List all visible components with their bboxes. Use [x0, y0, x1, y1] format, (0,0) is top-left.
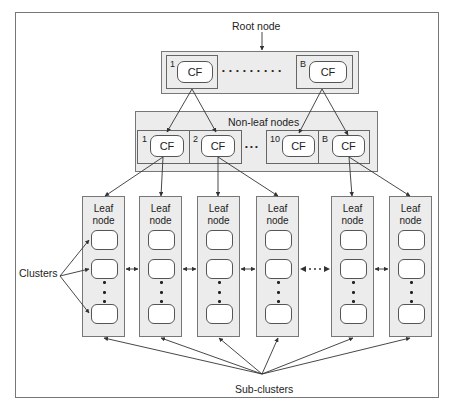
non-leaf-entry-2-index: 2 — [193, 134, 198, 144]
vertical-dot — [160, 300, 163, 303]
non-leaf-nodes-label: Non-leaf nodes — [228, 116, 299, 128]
non-leaf-divider-right — [318, 130, 319, 164]
vertical-dot — [103, 281, 106, 284]
cluster-entry — [398, 304, 425, 324]
leaf-node-title: Leaf — [401, 203, 420, 214]
root-ellipsis: • • • • • • • • • — [222, 66, 282, 75]
vertical-dot — [218, 300, 221, 303]
cluster-entry — [206, 259, 233, 279]
cluster-entry — [398, 230, 425, 250]
leaf-node-title: Leaf — [94, 203, 113, 214]
vertical-dot — [410, 291, 413, 294]
vertical-dot — [352, 291, 355, 294]
non-leaf-entry-b-index: B — [322, 134, 328, 144]
leaf-node-1: Leafnode — [82, 196, 125, 337]
cluster-entry — [148, 304, 175, 324]
vertical-dot — [410, 281, 413, 284]
non-leaf-entry-1-index: 1 — [142, 134, 147, 144]
root-entry-1: 1 CF — [166, 55, 218, 89]
cluster-entry — [91, 304, 118, 324]
vertical-dot — [218, 291, 221, 294]
clusters-label: Clusters — [19, 267, 58, 279]
non-leaf-entry-10-cf: CF — [282, 135, 315, 157]
leaf-node-3: Leafnode — [197, 196, 240, 337]
leaf-node-subtitle: node — [149, 215, 171, 226]
root-entry-b: B CF — [296, 55, 353, 89]
cluster-entry — [91, 259, 118, 279]
non-leaf-entry-1-cf: CF — [150, 135, 184, 157]
cluster-entry — [340, 304, 367, 324]
leaf-node-2: Leafnode — [139, 196, 182, 337]
cluster-entry — [265, 304, 292, 324]
vertical-dot — [277, 291, 280, 294]
root-entry-1-index: 1 — [170, 59, 175, 69]
cluster-entry — [340, 230, 367, 250]
cluster-entry — [340, 259, 367, 279]
vertical-dot — [277, 300, 280, 303]
vertical-dot — [410, 300, 413, 303]
root-entry-b-index: B — [300, 59, 306, 69]
root-node-label: Root node — [232, 20, 280, 32]
non-leaf-entry-2-cf: CF — [201, 135, 235, 157]
leaf-node-title: Leaf — [151, 203, 170, 214]
vertical-dot — [218, 281, 221, 284]
vertical-dot — [352, 300, 355, 303]
leaf-node-subtitle: node — [341, 215, 363, 226]
leaf-node-6: Leafnode — [389, 196, 432, 337]
non-leaf-entry-10-index: 10 — [270, 134, 280, 144]
leaf-node-subtitle: node — [399, 215, 421, 226]
leaf-node-title: Leaf — [209, 203, 228, 214]
cluster-entry — [265, 259, 292, 279]
cluster-entry — [148, 230, 175, 250]
leaf-node-4: Leafnode — [256, 196, 299, 337]
root-entry-1-cf: CF — [177, 61, 213, 83]
cluster-entry — [265, 230, 292, 250]
non-leaf-divider-left — [189, 130, 190, 164]
cluster-entry — [148, 259, 175, 279]
sub-clusters-label: Sub-clusters — [235, 383, 293, 395]
non-leaf-ellipsis: • • • — [245, 142, 258, 151]
leaf-node-5: Leafnode — [331, 196, 374, 337]
non-leaf-entry-b-cf: CF — [332, 135, 365, 157]
vertical-dot — [103, 291, 106, 294]
cluster-entry — [398, 259, 425, 279]
cluster-entry — [206, 230, 233, 250]
leaf-node-title: Leaf — [268, 203, 287, 214]
leaf-node-subtitle: node — [266, 215, 288, 226]
vertical-dot — [103, 300, 106, 303]
vertical-dot — [277, 281, 280, 284]
cluster-entry — [91, 230, 118, 250]
leaf-node-subtitle: node — [207, 215, 229, 226]
cluster-entry — [206, 304, 233, 324]
leaf-node-subtitle: node — [92, 215, 114, 226]
leaf-node-title: Leaf — [343, 203, 362, 214]
vertical-dot — [352, 281, 355, 284]
root-entry-b-cf: CF — [309, 61, 347, 83]
vertical-dot — [160, 281, 163, 284]
vertical-dot — [160, 291, 163, 294]
